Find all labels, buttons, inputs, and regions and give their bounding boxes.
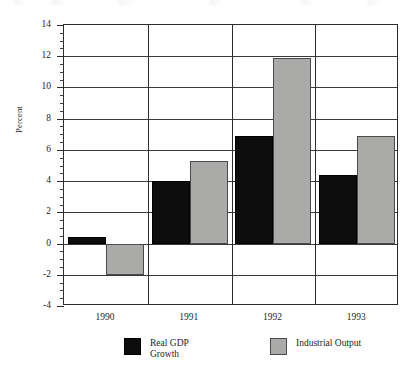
y-tick-major	[57, 306, 64, 307]
scan-artifact	[0, 0, 415, 5]
y-tick-minor	[60, 267, 64, 268]
legend-swatch-real-gdp-growth	[124, 338, 141, 355]
bar-1992-series-1	[273, 58, 311, 244]
bar-1992-series-0	[235, 136, 273, 244]
y-tick-major	[57, 119, 64, 120]
x-tick-label: 1992	[231, 312, 315, 323]
y-tick-minor	[60, 259, 64, 260]
y-tick-minor	[60, 142, 64, 143]
legend-label-industrial-output: Industrial Output	[296, 337, 361, 349]
y-tick-minor	[60, 251, 64, 252]
y-tick-major	[57, 150, 64, 151]
y-tick-minor	[60, 228, 64, 229]
y-tick-minor	[60, 205, 64, 206]
panel-divider	[232, 25, 233, 304]
legend-label-real-gdp-growth: Real GDP Growth	[150, 337, 189, 359]
y-tick-major	[57, 244, 64, 245]
y-tick-label: 8	[17, 113, 51, 123]
legend-swatch-industrial-output	[270, 338, 287, 355]
y-tick-major	[57, 212, 64, 213]
y-tick-minor	[60, 220, 64, 221]
bar-1990-series-1	[106, 244, 144, 275]
gridline	[64, 87, 397, 88]
y-tick-minor	[60, 158, 64, 159]
bar-1993-series-0	[319, 175, 357, 244]
y-tick-major	[57, 25, 64, 26]
y-tick-minor	[60, 72, 64, 73]
y-tick-minor	[60, 197, 64, 198]
panel-divider	[315, 25, 316, 304]
y-tick-label: -4	[17, 300, 51, 310]
y-tick-label: 10	[17, 81, 51, 91]
gridline	[64, 150, 397, 151]
bar-1991-series-0	[152, 181, 190, 243]
legend-item-industrial-output: Industrial Output	[270, 337, 361, 355]
chart-legend: Real GDP Growth Industrial Output	[0, 337, 415, 371]
y-tick-minor	[60, 33, 64, 34]
y-tick-minor	[60, 126, 64, 127]
y-tick-minor	[60, 298, 64, 299]
legend-item-real-gdp-growth: Real GDP Growth	[124, 337, 189, 359]
y-tick-minor	[60, 111, 64, 112]
y-tick-minor	[60, 134, 64, 135]
y-tick-minor	[60, 173, 64, 174]
y-tick-minor	[60, 166, 64, 167]
gridline	[64, 275, 397, 276]
y-tick-major	[57, 56, 64, 57]
panel-divider	[148, 25, 149, 304]
y-tick-minor	[60, 41, 64, 42]
y-tick-minor	[60, 64, 64, 65]
y-tick-label: -2	[17, 269, 51, 279]
y-tick-major	[57, 181, 64, 182]
y-tick-label: 14	[17, 19, 51, 29]
gridline	[64, 119, 397, 120]
y-tick-minor	[60, 283, 64, 284]
bar-1990-series-0	[68, 237, 106, 243]
y-tick-major	[57, 275, 64, 276]
y-tick-label: 0	[17, 238, 51, 248]
bar-1993-series-1	[357, 136, 395, 244]
y-tick-label: 12	[17, 50, 51, 60]
y-tick-minor	[60, 189, 64, 190]
x-tick-label: 1993	[314, 312, 398, 323]
y-tick-minor	[60, 236, 64, 237]
plot-area	[63, 24, 398, 305]
y-tick-minor	[60, 48, 64, 49]
gridline	[64, 56, 397, 57]
y-tick-minor	[60, 290, 64, 291]
y-tick-minor	[60, 80, 64, 81]
x-tick-label: 1991	[147, 312, 231, 323]
bar-1991-series-1	[190, 161, 228, 244]
y-tick-minor	[60, 103, 64, 104]
bar-chart: Percent -4-202468101214 1990199119921993…	[0, 0, 415, 377]
x-tick-label: 1990	[63, 312, 147, 323]
y-tick-label: 2	[17, 206, 51, 216]
y-tick-minor	[60, 95, 64, 96]
y-tick-label: 4	[17, 175, 51, 185]
y-tick-label: 6	[17, 144, 51, 154]
y-tick-major	[57, 87, 64, 88]
